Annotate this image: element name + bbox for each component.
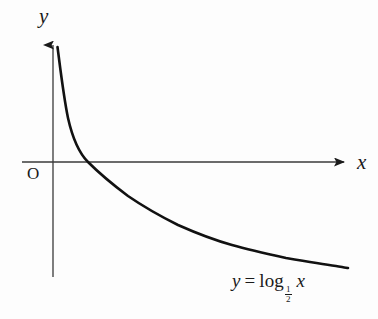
equation-argument: x bbox=[297, 271, 305, 290]
plot-canvas bbox=[0, 0, 378, 319]
origin-label: O bbox=[27, 165, 39, 182]
y-axis-label: y bbox=[39, 6, 48, 27]
x-axis-label: x bbox=[357, 152, 366, 173]
equation-equals-sign: = bbox=[244, 271, 255, 290]
log-curve bbox=[58, 47, 349, 268]
equation-log-base-fraction: 1 2 bbox=[285, 285, 292, 304]
curve-equation-label: y = log 1 2 x bbox=[232, 271, 305, 299]
equation-lhs: y bbox=[232, 271, 240, 290]
equation-log-function: log bbox=[259, 271, 284, 290]
log-function-graph-figure: y x O y = log 1 2 x bbox=[0, 0, 378, 319]
fraction-denominator: 2 bbox=[285, 295, 292, 304]
fraction-numerator: 1 bbox=[285, 285, 292, 294]
